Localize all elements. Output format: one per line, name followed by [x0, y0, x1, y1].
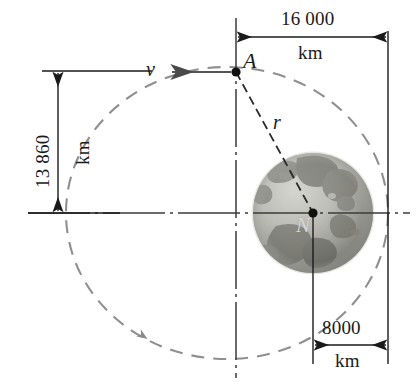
dimension-left-value: 13 860	[33, 135, 52, 188]
earth-center-label: N	[296, 215, 310, 236]
dimension-top-unit: km	[298, 43, 323, 62]
dimension-left-unit: km	[73, 140, 92, 165]
dimension-bottom-unit: km	[335, 351, 360, 370]
apogee-point-marker	[231, 67, 240, 76]
radius-label: r	[273, 112, 281, 132]
velocity-label: v	[146, 59, 155, 79]
orbit-diagram-figure: 16 000 km 13 860 km 8000 km A v r N	[0, 0, 417, 392]
apogee-point-label: A	[243, 50, 256, 72]
orbit-direction-arrow	[118, 319, 146, 338]
dimension-top-value: 16 000	[281, 9, 334, 28]
dimension-bottom-value: 8000	[322, 318, 361, 337]
